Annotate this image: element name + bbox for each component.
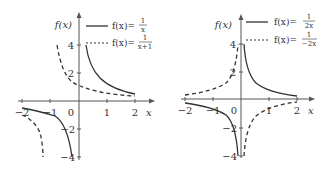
left-legend-2-prefix: f(x)= <box>112 38 135 48</box>
left-x-arrow-icon <box>149 99 155 104</box>
left-tick-x-2: 2 <box>132 107 138 118</box>
left-tick-x-0: 0 <box>68 107 74 118</box>
right-tick-x-1: 1 <box>266 105 272 116</box>
chart-canvas: −2 −1 0 1 2 x 4 2 −2 −4 f(x) f(x)= 1 x f… <box>0 0 334 169</box>
right-y-label: f(x) <box>214 19 232 30</box>
right-tick-y-neg4: −4 <box>222 151 237 162</box>
right-tick-x-2: 2 <box>294 105 300 116</box>
right-legend-2-den: −2x <box>302 40 316 48</box>
left-legend-2-num: 1 <box>143 34 147 42</box>
left-tick-y-neg2: −2 <box>60 124 75 135</box>
left-legend-1-den: x <box>141 26 145 34</box>
left-legend-1-num: 1 <box>141 17 145 25</box>
right-x-arrow-icon <box>309 97 315 102</box>
left-y-label: f(x) <box>54 19 72 30</box>
left-chart: −2 −1 0 1 2 x 4 2 −2 −4 f(x) f(x)= 1 x f… <box>15 12 155 163</box>
right-legend-2-num: 1 <box>307 31 311 39</box>
right-tick-x-neg2: −2 <box>178 105 193 116</box>
right-y-arrow-icon <box>239 14 244 20</box>
left-tick-y-4: 4 <box>68 40 74 51</box>
right-tick-x-0: 0 <box>231 105 237 116</box>
right-tick-y-4: 4 <box>230 39 236 50</box>
right-legend-1-den: 2x <box>305 22 313 30</box>
right-legend-1-num: 1 <box>307 13 311 21</box>
left-legend-1-prefix: f(x)= <box>112 21 135 31</box>
right-chart: −2 −1 0 1 2 x 4 2 −2 −4 f(x) f(x)= 1 2x … <box>178 13 317 162</box>
right-legend-1-prefix: f(x)= <box>274 17 297 27</box>
right-legend-2-prefix: f(x)= <box>274 35 297 45</box>
left-tick-y-neg4: −4 <box>60 152 75 163</box>
right-curve-1-over-2x <box>244 44 297 96</box>
right-x-label: x <box>308 105 314 116</box>
left-curve-1-over-x <box>86 45 135 94</box>
left-tick-y-2: 2 <box>68 68 74 79</box>
left-tick-x-1: 1 <box>104 107 110 118</box>
left-curve-1-over-xplus1-neg <box>22 115 43 157</box>
left-x-label: x <box>146 107 152 118</box>
left-legend-2-den: x+1 <box>138 43 152 51</box>
left-y-arrow-icon <box>77 12 82 18</box>
